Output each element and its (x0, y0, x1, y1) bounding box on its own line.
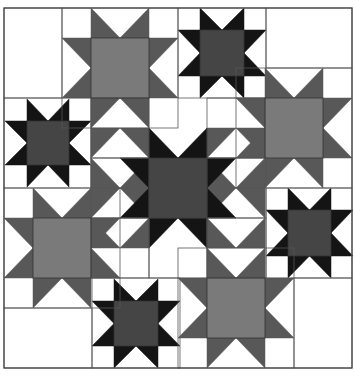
star-center (288, 210, 331, 256)
star-center (114, 301, 158, 346)
star-center (33, 218, 91, 278)
quilt-canvas (0, 0, 355, 376)
star-center (91, 38, 149, 98)
star-center (200, 30, 244, 76)
star-center (265, 98, 323, 158)
star-center (207, 278, 265, 338)
star-center (149, 158, 207, 218)
